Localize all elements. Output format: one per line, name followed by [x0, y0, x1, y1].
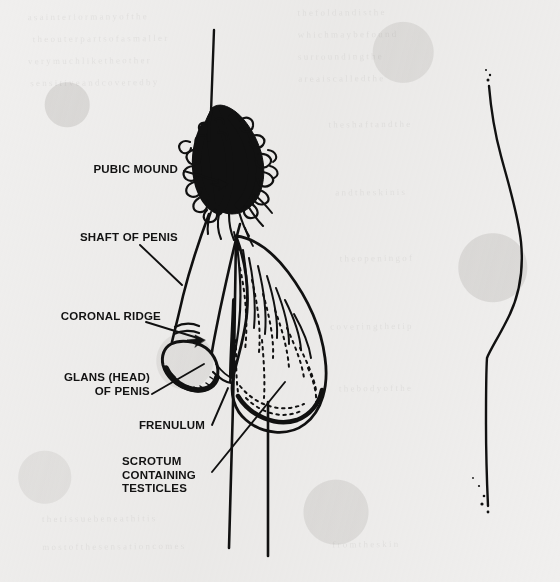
leader-frenulum [212, 388, 228, 425]
scrotum-bottom-shadow [238, 390, 322, 422]
diagram-page: a s a i n t e r i o r m a n y o f t h e … [0, 0, 560, 582]
anatomical-illustration [0, 0, 560, 582]
label-frenulum: FRENULUM [70, 419, 205, 433]
label-coronal-ridge: CORONAL RIDGE [6, 310, 161, 324]
leader-shaft-of-penis [140, 245, 182, 285]
label-shaft-of-penis: SHAFT OF PENIS [8, 231, 178, 245]
scrotum-hatching [243, 250, 311, 358]
abdomen-midline-path [211, 30, 214, 112]
pubic-hair-group [179, 105, 277, 250]
label-pubic-mound: PUBIC MOUND [18, 163, 178, 177]
thigh-line-left [229, 236, 236, 548]
label-glans-head-of-penis: GLANS (HEAD) OF PENIS [10, 371, 150, 398]
label-scrotum-containing-testicles: SCROTUM CONTAINING TESTICLES [122, 455, 272, 496]
body-profile-contour [486, 86, 522, 506]
body-profile-end-speckles [472, 69, 491, 513]
